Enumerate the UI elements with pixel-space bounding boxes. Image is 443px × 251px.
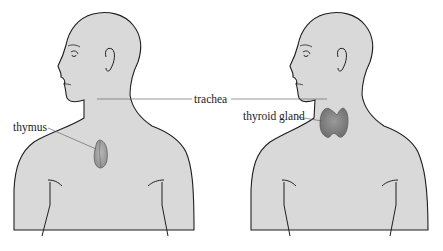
thymus-label: thymus xyxy=(13,121,47,134)
left-figure: thymus xyxy=(13,12,194,236)
thyroid-label: thyroid gland xyxy=(243,110,305,123)
thyroid-organ xyxy=(320,108,348,137)
trachea-label: trachea xyxy=(194,93,227,105)
right-figure: thyroid gland xyxy=(243,12,428,236)
diagram-canvas: thymus thyroid gland trachea xyxy=(0,0,443,251)
